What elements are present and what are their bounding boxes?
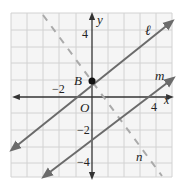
tick-label-x-neg2: −2 <box>52 82 65 96</box>
point-b <box>89 78 96 85</box>
tick-label-y-neg4: −4 <box>77 155 90 169</box>
x-axis-label: x <box>163 93 170 107</box>
coordinate-plane: y x O B ℓ m n −2 4 4 −2 −4 <box>0 0 182 192</box>
point-b-label: B <box>74 73 82 88</box>
y-axis-label: y <box>95 12 103 27</box>
tick-label-x-4: 4 <box>151 100 157 114</box>
line-l-label: ℓ <box>145 23 151 38</box>
tick-label-y-4: 4 <box>82 27 88 41</box>
tick-label-y-neg2: −2 <box>77 123 90 137</box>
line-n-label: n <box>136 149 143 164</box>
origin-label: O <box>80 100 90 115</box>
line-m-label: m <box>155 68 164 83</box>
